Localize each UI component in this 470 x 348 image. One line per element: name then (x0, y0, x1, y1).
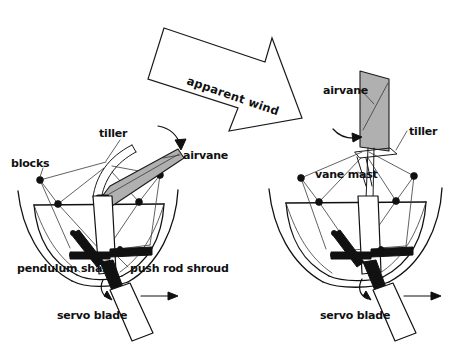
right-linkage-pivot-3 (378, 246, 383, 251)
left-block-dot-1 (37, 177, 44, 184)
right-airvane (360, 71, 389, 151)
right-rigging (298, 152, 418, 250)
right-block-dot-2 (316, 199, 323, 206)
right-tiller-arm-1 (355, 148, 397, 158)
left-tiller-end (132, 145, 136, 152)
right-rig-line-9 (301, 178, 326, 249)
windvane-self-steering-diagram: apparent wind (0, 0, 470, 348)
right-linkage-bracket (331, 252, 371, 259)
right-vane-rotation-arrow (333, 129, 362, 142)
right-label-vane-mast: vane mast (315, 168, 378, 181)
right-label-tiller: tiller (409, 125, 438, 138)
left-travel-arrow (141, 292, 178, 300)
left-rig-line-1 (40, 162, 106, 180)
right-linkage-pivot-2 (330, 252, 335, 257)
left-block-dot-3 (136, 199, 143, 206)
right-leader-tiller (396, 131, 407, 150)
left-label-airvane: airvane (183, 149, 228, 162)
left-label-blocks: blocks (11, 157, 50, 170)
left-linkage-pivot-2 (69, 252, 74, 257)
left-push-rod-shroud-bar (110, 247, 152, 257)
right-travel-arrow (404, 292, 441, 300)
left-label-servo-blade: servo blade (57, 309, 127, 322)
left-vane-rotation-arrow (158, 126, 186, 150)
right-label-airvane: airvane (323, 84, 368, 97)
left-travel-arrowhead (168, 292, 178, 300)
right-hull (269, 188, 442, 287)
left-label-pendulum-shaft: pendulum shaft (17, 262, 112, 275)
diagram-canvas: apparent wind (0, 0, 470, 348)
right-hull-chine-port (286, 203, 332, 273)
right-block-dot-1 (298, 175, 305, 182)
right-airvane-blade (360, 71, 389, 151)
left-linkage-bracket (70, 252, 110, 259)
left-label-tiller: tiller (99, 127, 128, 140)
left-leader-pushrod (118, 257, 128, 267)
left-rig-line-9 (40, 180, 70, 248)
left-label-push-rod-shroud: push rod shroud (130, 262, 229, 275)
apparent-wind-arrow-shape (148, 28, 302, 131)
right-shaft-rotation-arrow (360, 279, 371, 300)
right-travel-arrowhead (431, 292, 441, 300)
right-label-servo-blade: servo blade (320, 309, 390, 322)
right-push-rod (332, 230, 364, 267)
right-linkage-pivot-1 (331, 230, 336, 235)
right-deck-line (286, 202, 426, 203)
apparent-wind-arrow: apparent wind (148, 28, 302, 131)
left-linkage-pivot-3 (117, 246, 122, 251)
right-push-rod-shroud-bar (371, 247, 413, 257)
right-rig-line-2 (301, 178, 319, 202)
right-block-dot-4 (411, 173, 418, 180)
right-block-dot-3 (393, 198, 400, 205)
left-block-dot-2 (55, 201, 62, 208)
left-linkage-pivot-1 (70, 230, 75, 235)
left-side-view: tiller airvane blocks pendulum shaft pus… (11, 126, 229, 341)
